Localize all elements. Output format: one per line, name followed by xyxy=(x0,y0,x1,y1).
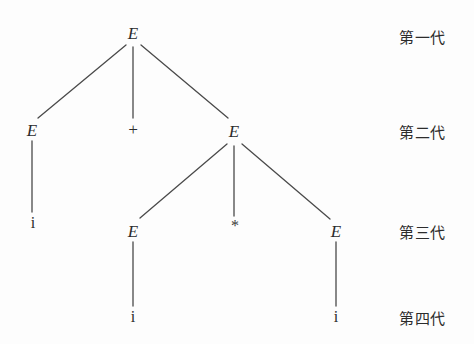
generation-label-3: 第三代 xyxy=(399,221,446,242)
tree-node-n4: E xyxy=(229,123,240,140)
generation-label-2: 第二代 xyxy=(399,121,446,142)
tree-node-n10: i xyxy=(334,309,339,325)
tree-node-n2: E xyxy=(27,122,38,139)
generation-label-4: 第四代 xyxy=(399,307,446,328)
tree-node-n6: E xyxy=(128,223,139,240)
tree-node-n9: i xyxy=(131,309,136,325)
tree-node-n5: i xyxy=(31,215,36,231)
tree-node-n8: E xyxy=(331,223,342,240)
generation-label-1: 第一代 xyxy=(399,26,446,47)
parse-tree-diagram: EE+EiE*Eii 第一代第二代第三代第四代 xyxy=(0,0,474,344)
edges-group xyxy=(32,45,336,306)
tree-edges-layer xyxy=(0,0,474,344)
tree-edge xyxy=(140,144,227,218)
tree-edge xyxy=(38,45,126,118)
tree-edge xyxy=(242,144,330,219)
tree-edge xyxy=(141,45,228,118)
tree-node-n3: + xyxy=(127,121,139,138)
tree-node-n1: E xyxy=(128,25,139,42)
tree-node-n7: * xyxy=(231,218,239,234)
